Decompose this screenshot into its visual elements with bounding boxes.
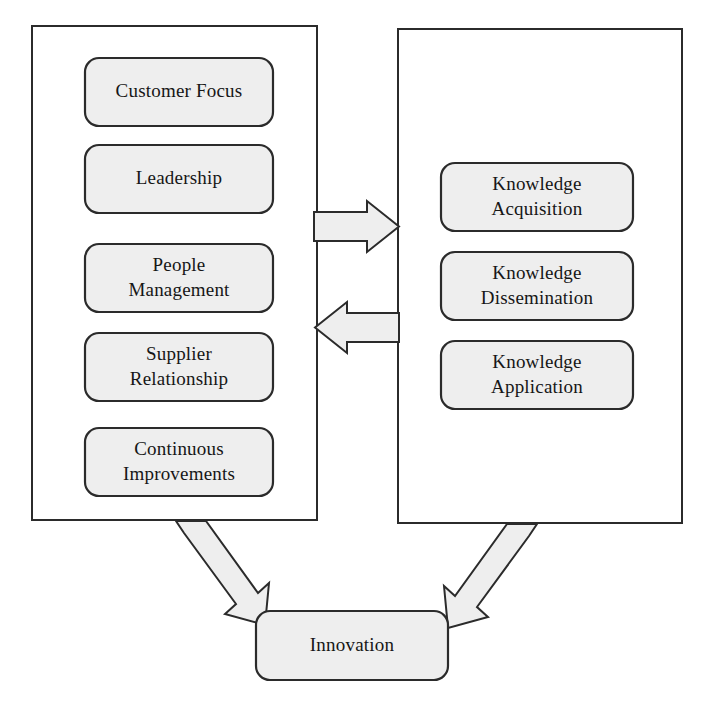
node-supplier-relationship-label-line1: Supplier [146, 343, 212, 364]
node-continuous-improvements[interactable]: Continuous Improvements [85, 428, 273, 496]
node-innovation[interactable]: Innovation [256, 611, 448, 680]
node-knowledge-dissemination-label-line1: Knowledge [492, 262, 581, 283]
node-knowledge-acquisition-label-line2: Acquisition [492, 198, 583, 219]
node-supplier-relationship[interactable]: Supplier Relationship [85, 333, 273, 401]
left-to-right-arrow-icon [314, 201, 399, 252]
node-people-management-label-line1: People [153, 254, 206, 275]
node-people-management[interactable]: People Management [85, 244, 273, 312]
left-to-innovation-arrow-icon [176, 521, 269, 625]
node-knowledge-acquisition[interactable]: Knowledge Acquisition [441, 163, 633, 231]
node-customer-focus-label-line1: Customer Focus [116, 80, 243, 101]
diagram-canvas: Customer Focus Leadership People Managem… [0, 0, 710, 713]
node-leadership-label-line1: Leadership [136, 167, 222, 188]
node-leadership[interactable]: Leadership [85, 145, 273, 213]
node-knowledge-application-label-line2: Application [491, 376, 583, 397]
node-customer-focus[interactable]: Customer Focus [85, 58, 273, 126]
node-knowledge-dissemination[interactable]: Knowledge Dissemination [441, 252, 633, 320]
node-supplier-relationship-label-line2: Relationship [130, 368, 228, 389]
node-innovation-label: Innovation [310, 634, 395, 655]
node-knowledge-dissemination-label-line2: Dissemination [481, 287, 594, 308]
node-knowledge-application[interactable]: Knowledge Application [441, 341, 633, 409]
node-continuous-improvements-label-line1: Continuous [134, 438, 224, 459]
right-to-left-arrow-icon [315, 302, 399, 353]
diagram-svg: Customer Focus Leadership People Managem… [0, 0, 710, 713]
node-people-management-label-line2: Management [128, 279, 230, 300]
right-to-innovation-arrow-icon [444, 524, 537, 628]
node-knowledge-application-label-line1: Knowledge [492, 351, 581, 372]
node-knowledge-acquisition-label-line1: Knowledge [492, 173, 581, 194]
node-continuous-improvements-label-line2: Improvements [123, 463, 235, 484]
